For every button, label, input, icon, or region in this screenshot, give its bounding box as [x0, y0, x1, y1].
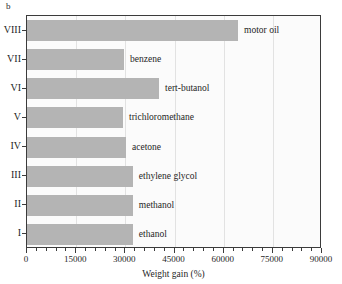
y-tick-mark — [22, 88, 26, 89]
bar-row: tert-butanol — [27, 74, 320, 103]
bar-value-label: trichloromethane — [129, 109, 194, 126]
figure-panel-b: b VIIIVIIVIVIVIIIIII motor oilbenzeneter… — [0, 0, 342, 284]
x-tick-minor — [183, 248, 184, 251]
bar[interactable] — [27, 78, 159, 99]
x-tick-major — [174, 248, 175, 253]
x-tick-minor — [292, 248, 293, 251]
x-tick-minor — [282, 248, 283, 251]
y-tick-mark — [22, 233, 26, 234]
y-tick-mark — [22, 117, 26, 118]
x-tick-minor — [105, 248, 106, 251]
x-tick-minor — [46, 248, 47, 251]
x-tick-label: 75000 — [261, 254, 284, 265]
y-tick-label: VIII — [4, 24, 21, 36]
plot-area: motor oilbenzenetert-butanoltrichloromet… — [26, 15, 321, 248]
bar-row: ethylene glycol — [27, 162, 320, 191]
x-tick-minor — [301, 248, 302, 251]
x-tick-minor — [115, 248, 116, 251]
y-tick-mark — [22, 146, 26, 147]
y-tick-label: III — [11, 169, 21, 181]
bar-value-label: motor oil — [244, 22, 279, 39]
x-tick-major — [321, 248, 322, 253]
x-tick-minor — [193, 248, 194, 251]
x-tick-minor — [311, 248, 312, 251]
x-tick-minor — [213, 248, 214, 251]
bar-value-label: ethylene glycol — [139, 168, 197, 185]
bar[interactable] — [27, 137, 126, 158]
bar-row: benzene — [27, 45, 320, 74]
y-tick-label: IV — [10, 140, 21, 152]
x-tick-minor — [203, 248, 204, 251]
bar-row: methanol — [27, 191, 320, 220]
y-tick-mark — [22, 59, 26, 60]
x-tick-minor — [164, 248, 165, 251]
bar-value-label: benzene — [130, 51, 161, 68]
x-tick-label: 15000 — [64, 254, 87, 265]
bar-value-label: methanol — [139, 197, 174, 214]
y-axis-tick-labels: VIIIVIIVIVIVIIIIII — [0, 15, 24, 248]
x-tick-minor — [262, 248, 263, 251]
bar[interactable] — [27, 166, 133, 187]
x-tick-minor — [252, 248, 253, 251]
x-tick-major — [272, 248, 273, 253]
y-tick-label: VI — [10, 82, 21, 94]
x-tick-label: 90000 — [310, 254, 333, 265]
bar[interactable] — [27, 49, 124, 70]
x-tick-minor — [65, 248, 66, 251]
x-tick-label: 30000 — [113, 254, 136, 265]
bar-value-label: tert-butanol — [165, 80, 209, 97]
x-tick-major — [124, 248, 125, 253]
bar-row: acetone — [27, 133, 320, 162]
bar[interactable] — [27, 20, 238, 41]
x-tick-minor — [85, 248, 86, 251]
x-tick-minor — [154, 248, 155, 251]
x-tick-major — [26, 248, 27, 253]
x-tick-major — [223, 248, 224, 253]
bar[interactable] — [27, 195, 133, 216]
y-tick-label: I — [18, 227, 21, 239]
bar-row: motor oil — [27, 16, 320, 45]
y-tick-label: VII — [7, 53, 21, 65]
y-tick-label: II — [14, 198, 21, 210]
x-tick-minor — [36, 248, 37, 251]
y-tick-mark — [22, 175, 26, 176]
x-tick-minor — [95, 248, 96, 251]
bar-row: ethanol — [27, 220, 320, 248]
x-tick-minor — [242, 248, 243, 251]
bar-value-label: ethanol — [139, 226, 167, 243]
x-tick-label: 0 — [24, 254, 29, 265]
y-tick-mark — [22, 30, 26, 31]
bar[interactable] — [27, 224, 133, 245]
x-tick-major — [75, 248, 76, 253]
bar-row: trichloromethane — [27, 103, 320, 132]
x-tick-minor — [233, 248, 234, 251]
y-tick-mark — [22, 204, 26, 205]
y-tick-label: V — [14, 111, 21, 123]
x-axis-title: Weight gain (%) — [26, 268, 321, 280]
bar[interactable] — [27, 107, 123, 128]
x-tick-minor — [134, 248, 135, 251]
panel-label: b — [6, 1, 11, 11]
x-tick-label: 45000 — [162, 254, 185, 265]
x-tick-label: 60000 — [211, 254, 234, 265]
bar-value-label: acetone — [132, 139, 161, 156]
x-tick-minor — [56, 248, 57, 251]
x-tick-minor — [144, 248, 145, 251]
